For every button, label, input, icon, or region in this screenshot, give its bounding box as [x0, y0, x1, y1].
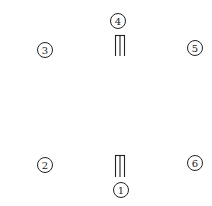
top-wicket-icon	[115, 35, 125, 56]
position-label-4: 4	[115, 16, 121, 27]
position-label-1: 1	[118, 185, 124, 196]
position-label-5: 5	[192, 43, 198, 54]
position-marker-6: 6	[188, 156, 203, 171]
position-label-6: 6	[192, 158, 198, 169]
bottom-wicket-icon	[115, 155, 125, 177]
position-label-3: 3	[42, 45, 48, 56]
position-marker-3: 3	[38, 43, 53, 58]
position-label-2: 2	[42, 160, 48, 171]
position-marker-2: 2	[38, 158, 53, 173]
position-marker-5: 5	[188, 41, 203, 56]
position-marker-1: 1	[114, 183, 129, 198]
position-marker-4: 4	[111, 14, 126, 29]
fielding-diagram: 1 2 3 4 5 6	[0, 0, 212, 206]
